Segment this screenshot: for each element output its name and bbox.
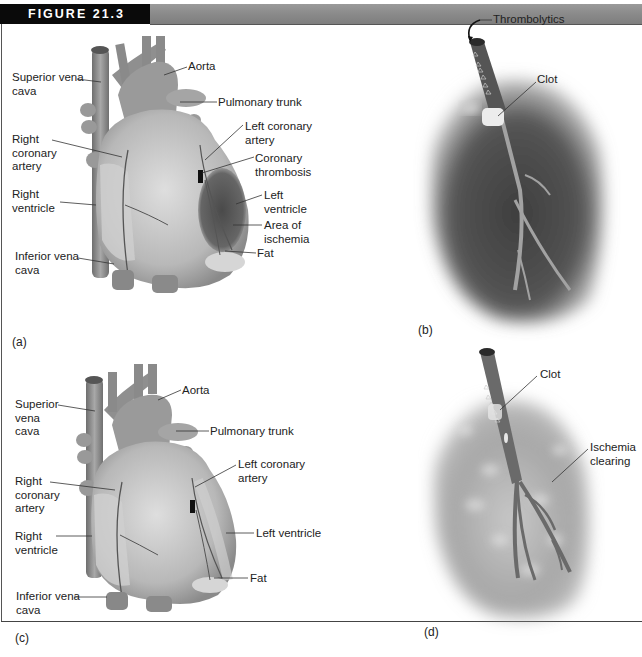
label-a-superior-vena-cava: Superior vena cava [12, 71, 84, 98]
panel-letter-c: (c) [15, 631, 29, 645]
label-a-area-of-ischemia: Area of ischemia [264, 219, 309, 246]
label-a-right-coronary-artery: Right coronary artery [12, 133, 57, 174]
figure-artwork [0, 0, 642, 657]
label-a-fat: Fat [257, 247, 274, 261]
label-a-right-ventricle: Right ventricle [12, 188, 55, 215]
reperfused-tissue-illustration-d [434, 348, 589, 618]
label-c-right-ventricle: Right ventricle [15, 530, 58, 557]
label-d-ischemia-clearing: Ischemia clearing [590, 441, 636, 468]
panel-letter-b: (b) [418, 323, 433, 337]
label-d-clot: Clot [540, 368, 560, 382]
label-c-right-coronary-artery: Right coronary artery [15, 475, 60, 516]
label-c-fat: Fat [250, 572, 267, 586]
label-c-aorta: Aorta [182, 384, 210, 398]
label-b-thrombolytics: Thrombolytics [493, 13, 565, 27]
label-a-aorta: Aorta [188, 60, 216, 74]
panel-letter-a: (a) [12, 335, 27, 349]
label-a-left-ventricle: Left ventricle [264, 189, 307, 216]
panel-letter-d: (d) [424, 625, 439, 639]
label-a-pulmonary-trunk: Pulmonary trunk [218, 96, 302, 110]
label-c-left-coronary-artery: Left coronary artery [238, 458, 305, 485]
label-c-pulmonary-trunk: Pulmonary trunk [210, 425, 294, 439]
label-a-inferior-vena-cava: Inferior vena cava [15, 250, 79, 277]
label-c-superior-vena-cava: Superior vena cava [15, 398, 58, 439]
ischemic-tissue-illustration-b [431, 20, 603, 323]
label-b-clot: Clot [537, 73, 557, 87]
label-c-inferior-vena-cava: Inferior vena cava [16, 590, 80, 617]
label-a-left-coronary-artery: Left coronary artery [245, 120, 312, 147]
label-a-coronary-thrombosis: Coronary thrombosis [255, 152, 311, 179]
label-c-left-ventricle: Left ventricle [256, 527, 321, 541]
